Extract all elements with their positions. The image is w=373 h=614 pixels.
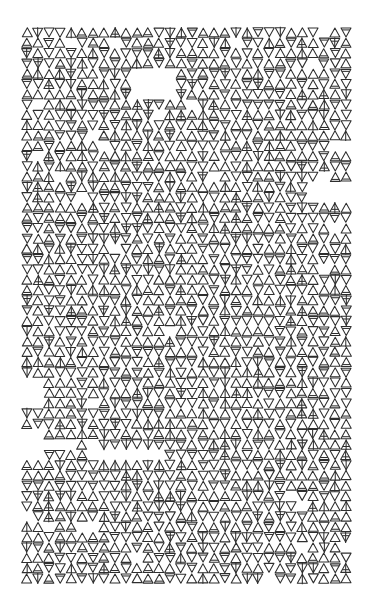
triangle-up-glyph	[341, 481, 351, 490]
triangle-up-glyph	[55, 213, 65, 222]
triangle-up-glyph	[165, 171, 175, 182]
triangle-up-glyph	[341, 512, 351, 521]
triangle-down-glyph	[33, 490, 43, 501]
triangle-up-glyph	[198, 399, 208, 408]
triangle-up-glyph	[66, 399, 76, 408]
triangle-up-glyph	[341, 574, 351, 583]
triangle-down-glyph	[198, 553, 208, 562]
triangle-up-glyph	[77, 49, 87, 58]
triangle-down-glyph	[209, 286, 219, 295]
triangle-up-glyph	[341, 501, 351, 512]
triangle-down-glyph	[110, 378, 120, 387]
triangle-up-glyph	[308, 492, 318, 501]
triangle-up-glyph	[330, 202, 340, 213]
triangle-up-glyph	[319, 512, 329, 521]
triangle-up-glyph	[88, 327, 98, 336]
triangle-down-glyph	[187, 388, 197, 397]
triangle-up-glyph	[99, 502, 109, 511]
triangle-up-glyph	[220, 439, 230, 450]
triangle-up-glyph	[33, 131, 43, 140]
triangle-up-glyph	[209, 326, 219, 335]
triangle-up-glyph	[110, 151, 120, 160]
triangle-up-glyph	[264, 461, 274, 470]
triangle-up-glyph	[198, 357, 208, 368]
triangle-down-glyph	[286, 522, 296, 531]
triangle-up-glyph	[77, 451, 87, 460]
triangle-down-glyph	[330, 564, 340, 573]
triangle-up-glyph	[77, 183, 87, 192]
triangle-up-glyph	[308, 80, 318, 89]
triangle-up-glyph	[231, 430, 241, 439]
triangle-down-glyph	[286, 224, 296, 233]
triangle-down-glyph	[154, 512, 164, 521]
triangle-up-glyph	[121, 512, 131, 521]
triangle-up-glyph	[275, 523, 285, 532]
triangle-up-glyph	[77, 224, 87, 233]
triangle-up-glyph	[286, 439, 296, 450]
triangle-up-glyph	[319, 451, 329, 460]
triangle-down-glyph	[242, 316, 252, 325]
triangle-up-glyph	[231, 244, 241, 253]
triangle-up-glyph	[220, 213, 230, 222]
triangle-up-glyph	[77, 429, 87, 440]
triangle-up-glyph	[33, 533, 43, 542]
triangle-up-glyph	[143, 378, 153, 387]
triangle-down-glyph	[154, 28, 164, 37]
triangle-up-glyph	[66, 90, 76, 99]
triangle-down-glyph	[22, 162, 32, 171]
triangle-up-glyph	[330, 470, 340, 481]
triangle-up-glyph	[198, 120, 208, 131]
triangle-down-glyph	[341, 399, 351, 408]
triangle-up-glyph	[242, 121, 252, 130]
triangle-up-glyph	[264, 306, 274, 315]
triangle-up-glyph	[220, 492, 230, 501]
triangle-up-glyph	[176, 552, 186, 563]
triangle-up-glyph	[132, 110, 142, 119]
triangle-up-glyph	[275, 399, 285, 408]
triangle-up-glyph	[110, 389, 120, 398]
triangle-up-glyph	[308, 234, 318, 243]
triangle-down-glyph	[22, 481, 32, 490]
triangle-down-glyph	[66, 131, 76, 140]
triangle-up-glyph	[275, 265, 285, 274]
triangle-down-glyph	[99, 368, 109, 377]
triangle-up-glyph	[44, 121, 54, 130]
triangle-up-glyph	[110, 347, 120, 356]
triangle-down-glyph	[154, 243, 164, 254]
triangle-down-glyph	[209, 368, 219, 377]
triangle-up-glyph	[220, 28, 230, 37]
triangle-down-glyph	[242, 532, 252, 543]
triangle-down-glyph	[242, 275, 252, 284]
triangle-down-glyph	[231, 409, 241, 418]
triangle-up-glyph	[165, 296, 175, 305]
triangle-up-glyph	[209, 28, 219, 37]
triangle-up-glyph	[88, 378, 98, 387]
triangle-down-glyph	[55, 542, 65, 553]
triangle-up-glyph	[99, 162, 109, 171]
triangle-up-glyph	[341, 203, 351, 212]
triangle-up-glyph	[132, 58, 142, 69]
triangle-up-glyph	[44, 265, 54, 274]
triangle-up-glyph	[143, 296, 153, 305]
triangle-up-glyph	[330, 284, 340, 295]
triangle-up-glyph	[319, 564, 329, 573]
triangle-up-glyph	[220, 193, 230, 202]
triangle-up-glyph	[198, 109, 208, 120]
triangle-down-glyph	[231, 316, 241, 325]
triangle-down-glyph	[55, 490, 65, 501]
triangle-up-glyph	[33, 274, 43, 285]
triangle-down-glyph	[132, 192, 142, 203]
triangle-up-glyph	[308, 420, 318, 429]
triangle-down-glyph	[187, 59, 197, 68]
triangle-up-glyph	[44, 78, 54, 89]
triangle-down-glyph	[66, 471, 76, 480]
triangle-up-glyph	[176, 419, 186, 428]
triangle-up-glyph	[154, 224, 164, 233]
triangle-up-glyph	[242, 480, 252, 491]
triangle-down-glyph	[121, 574, 131, 583]
triangle-up-glyph	[88, 28, 98, 37]
triangle-up-glyph	[55, 59, 65, 68]
triangle-down-glyph	[165, 481, 175, 490]
triangle-down-glyph	[330, 245, 340, 254]
triangle-up-glyph	[66, 275, 76, 284]
